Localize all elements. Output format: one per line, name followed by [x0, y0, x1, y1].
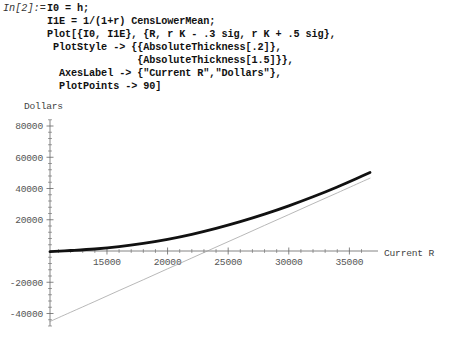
x-tick-label: 20000 — [154, 257, 182, 268]
plot-figure: 1500020000250003000035000 80000600004000… — [0, 96, 455, 340]
x-tick-label: 25000 — [214, 257, 242, 268]
x-tick-label: 15000 — [93, 257, 121, 268]
code-line-7: PlotPoints -> 90] — [47, 81, 161, 93]
y-tick-label: 80000 — [15, 121, 43, 132]
plot-series-I1E-thick-curve — [50, 173, 370, 252]
plot-series-group — [50, 173, 370, 322]
y-axis-tick-labels: 80000600004000020000-20000-40000 — [10, 121, 44, 320]
code-line-5: {AbsoluteThickness[1.5]}}, — [47, 55, 294, 67]
y-axis-label: Dollars — [24, 101, 63, 112]
x-axis-tick-labels: 1500020000250003000035000 — [93, 257, 364, 268]
x-tick-label: 35000 — [335, 257, 363, 268]
mathematica-graphics-cell[interactable]: 1500020000250003000035000 80000600004000… — [0, 96, 455, 340]
code-line-4: PlotStyle -> {{AbsoluteThickness[.2]}, — [47, 42, 282, 54]
x-tick-label: 30000 — [275, 257, 303, 268]
plot-axes — [47, 120, 379, 326]
mathematica-input-cell[interactable]: In[2]:= I0 = h; I1E = 1/(1+r) CensLowerM… — [0, 0, 455, 96]
y-tick-label: 40000 — [15, 184, 43, 195]
code-line-2: I1E = 1/(1+r) CensLowerMean; — [47, 16, 215, 28]
code-line-1: I0 = h; — [47, 3, 89, 15]
code-line-3: Plot[{I0, I1E}, {R, r K - .3 sig, r K + … — [47, 29, 336, 41]
y-tick-label: 20000 — [15, 215, 43, 226]
code-line-6: AxesLabel -> {"Current R","Dollars"}, — [47, 68, 282, 80]
y-tick-label: -20000 — [10, 278, 44, 289]
x-axis-label: Current R — [384, 248, 434, 259]
y-tick-label: -40000 — [10, 309, 44, 320]
input-prompt-label: In[2]:= — [3, 3, 46, 15]
y-tick-label: 60000 — [15, 153, 43, 164]
